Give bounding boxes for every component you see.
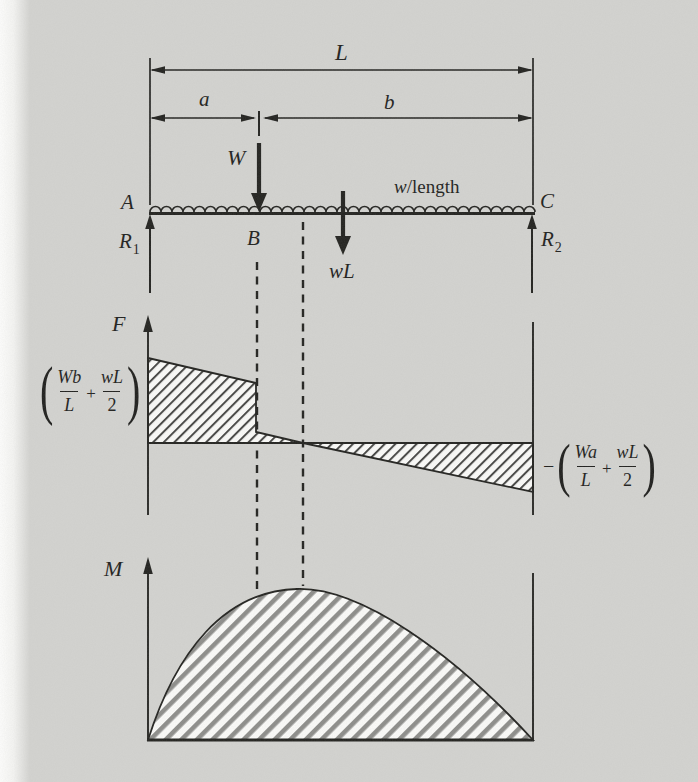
load-wL-label: wL bbox=[329, 261, 355, 282]
shear-left-frac1-denominator: L bbox=[60, 391, 78, 417]
shear-right-minus-sign: − bbox=[543, 456, 554, 476]
shear-left-frac1-numerator: Wb bbox=[53, 366, 85, 391]
shear-right-frac2-denominator: 2 bbox=[619, 466, 636, 492]
shear-right-value: − ( WaL + wL2 ) bbox=[543, 426, 656, 506]
point-C-label: C bbox=[540, 191, 554, 212]
shear-right-frac2-numerator: wL bbox=[613, 441, 643, 466]
shear-negative-region bbox=[303, 443, 533, 492]
dim-a-arrowhead-right bbox=[241, 114, 256, 121]
shear-left-frac2-denominator: 2 bbox=[103, 391, 120, 417]
shear-axis-label: F bbox=[112, 313, 125, 335]
dim-L-arrowhead-right bbox=[518, 66, 533, 73]
distributed-load-unit-text: /length bbox=[407, 176, 460, 197]
beam-loading-diagram bbox=[145, 58, 537, 590]
point-B-label: B bbox=[247, 228, 260, 249]
dim-a-label: a bbox=[199, 89, 210, 110]
dim-b-arrowhead-left bbox=[263, 114, 278, 121]
dim-a-arrowhead-left bbox=[150, 114, 165, 121]
load-wL-arrowhead bbox=[335, 236, 351, 255]
reaction-R2-label: R2 bbox=[541, 229, 562, 250]
shear-left-value: ( WbL + wL2 ) bbox=[40, 347, 140, 435]
shear-axis-arrowhead bbox=[143, 315, 153, 332]
shear-right-plus-sign: + bbox=[602, 460, 612, 477]
distributed-load-label: w/length bbox=[394, 177, 459, 196]
dim-b-label: b bbox=[384, 92, 395, 113]
shear-right-fraction-2: wL2 bbox=[613, 441, 643, 491]
dim-L-label: L bbox=[335, 41, 348, 64]
shear-left-fraction-1: WbL bbox=[53, 366, 85, 416]
shear-right-frac1-denominator: L bbox=[577, 466, 595, 492]
shear-right-fraction-1: WaL bbox=[571, 441, 601, 491]
reaction-R1-arrowhead bbox=[145, 214, 155, 229]
shear-left-frac2-numerator: wL bbox=[97, 366, 127, 391]
point-A-label: A bbox=[121, 192, 134, 213]
reaction-R1-subscript: 1 bbox=[133, 242, 140, 257]
load-W-label: W bbox=[227, 147, 245, 169]
dim-b-arrowhead-right bbox=[518, 114, 533, 121]
textbook-figure-page: L a b W w/length A C B R1 R2 wL F M ( Wb… bbox=[0, 0, 698, 782]
shear-right-open-paren: ( bbox=[557, 436, 570, 495]
shear-left-open-paren: ( bbox=[40, 359, 53, 424]
dim-L-arrowhead-left bbox=[150, 66, 165, 73]
bending-moment-diagram bbox=[143, 557, 534, 740]
reaction-R2-arrowhead bbox=[527, 214, 537, 229]
distributed-load-w-symbol: w bbox=[394, 176, 407, 197]
shear-right-close-paren: ) bbox=[643, 436, 656, 495]
reaction-R2-subscript: 2 bbox=[555, 240, 562, 255]
shear-left-fraction-2: wL2 bbox=[97, 366, 127, 416]
shear-left-close-paren: ) bbox=[127, 359, 140, 424]
moment-axis-arrowhead bbox=[143, 557, 153, 574]
shear-positive-region bbox=[148, 358, 303, 443]
reaction-R1-symbol: R bbox=[119, 229, 132, 253]
shear-right-frac1-numerator: Wa bbox=[571, 441, 601, 466]
moment-curve-region bbox=[148, 589, 533, 740]
shear-force-diagram bbox=[143, 315, 533, 515]
reaction-R1-label: R1 bbox=[119, 231, 140, 252]
shear-left-plus-sign: + bbox=[86, 385, 96, 402]
reaction-R2-symbol: R bbox=[541, 227, 554, 251]
moment-axis-label: M bbox=[104, 558, 122, 580]
